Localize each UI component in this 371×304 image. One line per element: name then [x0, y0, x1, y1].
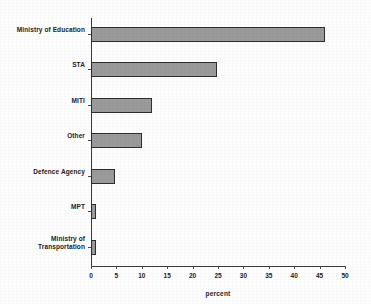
category-label-line: Ministry of — [0, 235, 85, 244]
x-axis-tick-label: 0 — [79, 272, 103, 279]
category-label: MITI — [0, 97, 85, 106]
x-axis-tick — [269, 266, 270, 269]
category-label: STA — [0, 61, 85, 70]
x-axis-tick-label: 10 — [130, 272, 154, 279]
bar — [91, 98, 152, 113]
bar — [91, 133, 142, 148]
x-axis-tick — [142, 266, 143, 269]
x-axis-tick — [320, 266, 321, 269]
x-axis-tick — [243, 266, 244, 269]
bar — [91, 169, 115, 184]
bar — [91, 204, 96, 219]
x-axis-tick — [116, 266, 117, 269]
x-axis-tick-label: 40 — [282, 272, 306, 279]
x-axis-tick — [345, 266, 346, 269]
category-label: Other — [0, 132, 85, 141]
x-axis-tick-label: 30 — [231, 272, 255, 279]
x-axis-tick-label: 50 — [333, 272, 357, 279]
plot-area: Ministry of EducationSTAMITIOtherDefence… — [91, 18, 345, 266]
x-axis-tick-label: 45 — [308, 272, 332, 279]
x-axis-title: percent — [91, 290, 345, 297]
x-axis-tick — [294, 266, 295, 269]
bar — [91, 240, 96, 255]
x-axis-tick — [193, 266, 194, 269]
x-axis-tick-label: 20 — [181, 272, 205, 279]
bar-chart: Ministry of EducationSTAMITIOtherDefence… — [0, 0, 371, 304]
category-label: MPT — [0, 203, 85, 212]
category-label: Ministry of Education — [0, 26, 85, 35]
x-axis-tick — [167, 266, 168, 269]
x-axis-tick-label: 35 — [257, 272, 281, 279]
category-label: Ministry ofTransportation — [0, 235, 85, 252]
x-axis-tick — [218, 266, 219, 269]
x-axis-tick-label: 15 — [155, 272, 179, 279]
x-axis-tick-label: 25 — [206, 272, 230, 279]
x-axis-tick-label: 5 — [104, 272, 128, 279]
category-label-line: Transportation — [0, 243, 85, 252]
bar — [91, 62, 217, 77]
x-axis-tick — [91, 266, 92, 269]
bar — [91, 27, 325, 42]
category-label: Defence Agency — [0, 168, 85, 177]
